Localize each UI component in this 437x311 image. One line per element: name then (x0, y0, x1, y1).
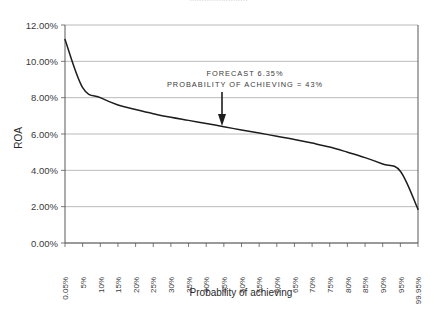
x-tick-label: 80% (344, 277, 353, 293)
annotation-line-2: PROBABILITY OF ACHIEVING = 43% (167, 80, 323, 89)
y-tick-label: 4.00% (31, 165, 58, 176)
y-tick-label: 10.00% (26, 56, 59, 67)
y-tick-label: 8.00% (31, 92, 58, 103)
x-tick-label: 15% (114, 277, 123, 293)
clipped-top-title: ........................ (0, 0, 437, 1)
x-tick-label: 20% (132, 277, 141, 293)
y-tick-labels-group: 0.00%2.00%4.00%6.00%8.00%10.00%12.00% (26, 20, 65, 249)
annotation-line-1: FORECAST 6.35% (206, 69, 283, 78)
annotation-arrow-head (218, 114, 226, 126)
x-tick-label: 30% (167, 277, 176, 293)
y-axis-title: ROA (13, 127, 24, 149)
x-tick-label: 99.95% (414, 277, 423, 304)
x-axis-title: Probability of achieving (190, 287, 293, 298)
y-tick-label: 12.00% (26, 20, 59, 31)
x-tick-label: 95% (397, 277, 406, 293)
x-tick-label: 75% (326, 277, 335, 293)
x-tick-label: 0.05% (61, 277, 70, 300)
roa-probability-line-chart: 0.00%2.00%4.00%6.00%8.00%10.00%12.00% 0.… (0, 0, 437, 311)
forecast-chart-figure: ........................ 0.00%2.00%4.00%… (0, 0, 437, 311)
x-tick-label: 90% (379, 277, 388, 293)
x-tick-label: 5% (79, 277, 88, 289)
x-tick-label: 85% (361, 277, 370, 293)
x-tick-label: 25% (149, 277, 158, 293)
x-tick-label: 70% (308, 277, 317, 293)
y-tick-label: 6.00% (31, 129, 58, 140)
y-tick-label: 2.00% (31, 201, 58, 212)
y-tick-label: 0.00% (31, 238, 58, 249)
gridlines-group (65, 25, 418, 243)
x-tick-label: 10% (97, 277, 106, 293)
roa-curve (65, 40, 418, 210)
